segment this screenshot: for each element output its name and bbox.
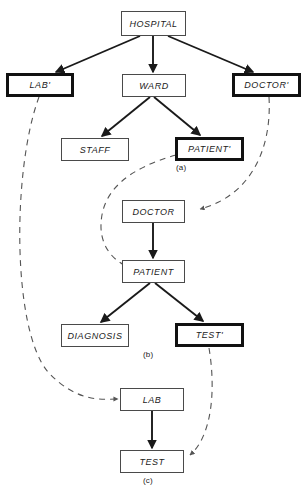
edge-hospital-to-lab-prime	[56, 36, 140, 72]
dashed-edge-test-prime-to-test	[190, 348, 212, 455]
node-staff[interactable]: STAFF	[61, 138, 129, 161]
node-lab[interactable]: LAB	[120, 388, 184, 411]
node-label-patient-prime: PATIENT'	[188, 144, 231, 154]
node-label-staff: STAFF	[80, 145, 111, 155]
edge-patient-to-test-prime	[155, 283, 203, 321]
node-lab-prime[interactable]: LAB'	[6, 73, 74, 97]
node-label-lab: LAB	[143, 395, 162, 405]
node-label-ward: WARD	[139, 81, 169, 91]
node-doctor-prime[interactable]: DOCTOR'	[232, 73, 301, 97]
caption-b: (b)	[143, 350, 153, 359]
node-ward[interactable]: WARD	[122, 74, 186, 97]
node-label-test: TEST	[139, 457, 164, 467]
node-doctor[interactable]: DOCTOR	[122, 200, 185, 223]
node-diagnosis[interactable]: DIAGNOSIS	[61, 324, 129, 347]
node-label-hospital: HOSPITAL	[129, 19, 177, 29]
node-label-diagnosis: DIAGNOSIS	[68, 331, 123, 341]
edge-ward-to-patient-prime	[154, 97, 200, 135]
node-hospital[interactable]: HOSPITAL	[121, 11, 186, 36]
node-patient-prime[interactable]: PATIENT'	[175, 137, 244, 161]
caption-c: (c)	[143, 476, 153, 485]
node-label-lab-prime: LAB'	[30, 80, 51, 90]
edge-patient-to-diagnosis	[101, 283, 150, 322]
node-patient[interactable]: PATIENT	[122, 260, 185, 283]
solid-edge-layer	[56, 36, 253, 448]
node-label-doctor-prime: DOCTOR'	[244, 80, 288, 90]
node-test-prime[interactable]: TEST'	[175, 323, 244, 347]
node-label-test-prime: TEST'	[196, 330, 223, 340]
node-label-doctor: DOCTOR	[132, 207, 174, 217]
edge-hospital-to-doctor-prime	[168, 36, 253, 72]
edge-ward-to-staff	[102, 97, 150, 136]
node-label-patient: PATIENT	[133, 267, 174, 277]
caption-a: (a)	[176, 163, 186, 172]
node-test[interactable]: TEST	[120, 450, 184, 473]
